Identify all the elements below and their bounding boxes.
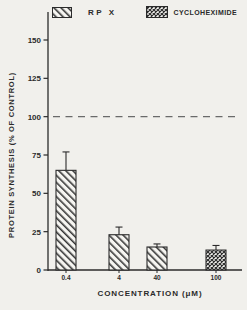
x-tick-label-0.4: 0.4 bbox=[61, 274, 70, 281]
bar-40 bbox=[147, 247, 167, 270]
figure-container: 02550751001251500.4440100 PROTEIN SYNTHE… bbox=[0, 0, 247, 310]
diagonal-hatch-swatch bbox=[52, 7, 72, 18]
y-tick-label: 150 bbox=[28, 36, 42, 45]
y-axis-title: PROTEIN SYNTHESIS (% OF CONTROL) bbox=[7, 72, 16, 238]
legend-label-cycloheximide: CYCLOHEXIMIDE bbox=[174, 9, 238, 16]
y-tick-label: 75 bbox=[32, 151, 41, 160]
bar-chart: 02550751001251500.4440100 PROTEIN SYNTHE… bbox=[0, 0, 247, 310]
x-axis-title: CONCENTRATION (μM) bbox=[98, 289, 203, 298]
bar-4 bbox=[109, 235, 129, 270]
legend-label-rpx: RP X bbox=[88, 8, 117, 17]
y-tick-label: 0 bbox=[37, 266, 42, 275]
y-tick-label: 125 bbox=[28, 74, 42, 83]
legend-item-rpx: RP X bbox=[52, 7, 117, 18]
bar-100 bbox=[206, 250, 226, 270]
y-tick-label: 25 bbox=[32, 228, 41, 237]
x-tick-label-100: 100 bbox=[211, 274, 222, 281]
bar-0.4 bbox=[56, 170, 76, 270]
x-tick-label-40: 40 bbox=[153, 274, 161, 281]
y-tick-label: 100 bbox=[28, 113, 42, 122]
chart-legend: RP X CYCLOHEXIMIDE bbox=[52, 6, 237, 18]
crosshatch-swatch bbox=[146, 6, 168, 18]
x-tick-label-4: 4 bbox=[117, 274, 121, 281]
legend-item-cycloheximide: CYCLOHEXIMIDE bbox=[146, 6, 238, 18]
y-tick-label: 50 bbox=[32, 189, 41, 198]
